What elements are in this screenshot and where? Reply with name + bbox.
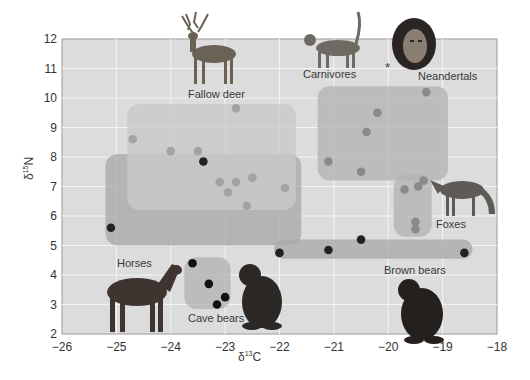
point-horses-brown-bears bbox=[324, 246, 333, 255]
point-fallow-deer bbox=[232, 104, 241, 113]
region-brown-bears-band bbox=[274, 240, 472, 259]
x-tick-label: −24 bbox=[161, 340, 182, 354]
cave-bears-label: Cave bears bbox=[188, 312, 244, 324]
point-carnivores bbox=[422, 88, 431, 97]
point-foxes bbox=[411, 218, 420, 227]
point-carnivores bbox=[357, 167, 366, 176]
point-fallow-deer bbox=[194, 147, 203, 156]
point-horses-brown-bears bbox=[275, 249, 284, 258]
y-axis-ticks: 23456789101112 bbox=[44, 32, 58, 341]
point-horses-brown-bears bbox=[107, 224, 116, 233]
x-tick-label: −26 bbox=[52, 340, 73, 354]
point-fallow-deer bbox=[281, 184, 290, 193]
y-tick-label: 11 bbox=[45, 62, 58, 76]
point-fallow-deer bbox=[166, 147, 175, 156]
point-foxes bbox=[419, 176, 428, 185]
y-tick-label: 4 bbox=[50, 268, 57, 282]
point-fallow-deer bbox=[215, 178, 224, 187]
point-fallow-deer bbox=[224, 188, 233, 197]
point-fallow-deer bbox=[128, 135, 137, 144]
point-carnivores bbox=[362, 128, 371, 137]
region-fallow-deer bbox=[127, 104, 296, 210]
neandertal-face-icon bbox=[392, 18, 436, 70]
x-tick-label: −25 bbox=[106, 340, 127, 354]
fallow-deer-label: Fallow deer bbox=[188, 88, 245, 100]
point-horses-brown-bears bbox=[199, 157, 208, 166]
point-fallow-deer bbox=[248, 173, 257, 182]
y-tick-label: 6 bbox=[50, 209, 57, 223]
carnivores-label: Carnivores bbox=[303, 68, 356, 80]
point-fallow-deer bbox=[243, 201, 252, 210]
neandertals-asterisk: * bbox=[385, 60, 390, 75]
y-tick-label: 12 bbox=[44, 32, 58, 46]
brown-bears-label: Brown bears bbox=[384, 264, 446, 276]
x-tick-label: −22 bbox=[269, 340, 290, 354]
isotope-scatter-chart: −26−25−24−23−22−21−20−19−18 234567891011… bbox=[0, 0, 530, 380]
y-tick-label: 2 bbox=[50, 327, 57, 341]
y-tick-label: 9 bbox=[50, 121, 57, 135]
y-axis-title: δ15N bbox=[22, 157, 36, 180]
y-tick-label: 8 bbox=[50, 150, 57, 164]
point-cave-bears bbox=[205, 280, 214, 289]
y-tick-label: 5 bbox=[50, 239, 57, 253]
point-cave-bears bbox=[221, 293, 230, 302]
y-tick-label: 10 bbox=[44, 91, 58, 105]
point-horses-brown-bears bbox=[357, 235, 366, 244]
x-tick-label: −20 bbox=[378, 340, 399, 354]
neandertals-label: Neandertals bbox=[418, 70, 477, 82]
x-tick-label: −23 bbox=[215, 340, 236, 354]
point-fallow-deer bbox=[232, 178, 241, 187]
x-tick-label: −18 bbox=[487, 340, 508, 354]
y-tick-label: 7 bbox=[50, 180, 57, 194]
point-foxes bbox=[411, 225, 420, 234]
point-carnivores bbox=[373, 108, 382, 117]
point-carnivores bbox=[324, 157, 333, 166]
region-carnivores bbox=[318, 86, 449, 180]
y-tick-label: 3 bbox=[50, 298, 57, 312]
foxes-label: Foxes bbox=[436, 218, 466, 230]
horses-label: Horses bbox=[117, 257, 152, 269]
x-tick-label: −21 bbox=[324, 340, 345, 354]
point-horses-brown-bears bbox=[460, 249, 469, 258]
point-cave-bears bbox=[213, 300, 222, 309]
point-foxes bbox=[400, 185, 409, 194]
point-cave-bears bbox=[188, 259, 197, 268]
x-axis-title: δ13C bbox=[238, 350, 261, 364]
